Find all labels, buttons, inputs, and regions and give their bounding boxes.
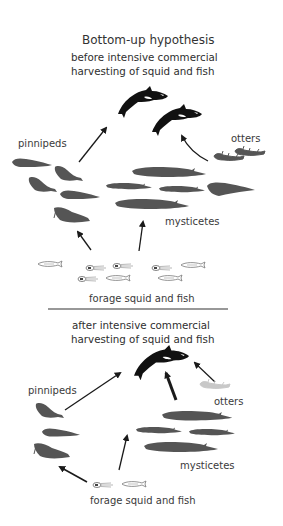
panel-heading-before-line2: harvesting of squid and fish	[71, 64, 211, 78]
forage-fish-icon	[122, 481, 146, 487]
arrow-otters-to-orca	[195, 363, 215, 382]
label-mysticetes-after: mysticetes	[180, 461, 235, 471]
whale-icon	[159, 186, 205, 192]
forage-squid-icon	[93, 483, 113, 488]
whale-icon	[189, 429, 235, 435]
forage-fish-icon	[158, 275, 182, 281]
arrow-forage-to-mysticetes	[119, 436, 127, 470]
pinniped-icon	[55, 166, 83, 181]
pinniped-icon	[12, 158, 52, 167]
forage-fish-icon	[181, 262, 205, 268]
panel-heading-after-line2: harvesting of squid and fish	[71, 332, 211, 346]
label-forage-before: forage squid and fish	[89, 294, 195, 304]
otter-icon	[200, 379, 230, 388]
arrow-otters-to-orca	[182, 136, 208, 161]
arrow-pinnipeds-to-orca	[79, 128, 106, 162]
orca-icon	[134, 345, 189, 380]
whale-icon	[144, 442, 218, 452]
forage-squid-icon	[86, 266, 106, 271]
food-web-graphics	[0, 0, 283, 526]
pinniped-icon	[34, 443, 70, 458]
label-pinnipeds-before: pinnipeds	[18, 139, 67, 149]
label-forage-after: forage squid and fish	[90, 496, 196, 506]
walrus-icon	[207, 182, 255, 196]
otter-icon	[235, 146, 265, 155]
forage-squid-icon	[78, 277, 98, 282]
orca-icon	[152, 104, 202, 136]
pinniped-icon	[42, 428, 80, 436]
arrow-mysticetes-to-orca-thick	[166, 373, 176, 400]
forage-squid-icon	[113, 264, 133, 269]
arrow-forage-to-pinnipeds	[78, 232, 91, 250]
panel-heading-before-line1: before intensive commercial	[71, 50, 211, 64]
forage-fish-icon	[106, 275, 130, 281]
pinniped-icon	[60, 190, 100, 199]
whale-icon	[132, 167, 206, 177]
pinniped-icon	[36, 403, 64, 418]
whale-icon	[136, 427, 182, 433]
label-otters-after: otters	[214, 397, 243, 407]
diagram-title: Bottom-up hypothesis	[82, 34, 215, 46]
arrow-forage-to-mysticetes	[139, 222, 143, 251]
orca-icon	[118, 86, 168, 118]
panel-heading-before: before intensive commercial harvesting o…	[71, 50, 211, 78]
pinniped-icon	[54, 207, 90, 222]
panel-heading-after-line1: after intensive commercial	[71, 318, 211, 332]
label-mysticetes-before: mysticetes	[165, 217, 220, 227]
label-pinnipeds-after: pinnipeds	[28, 386, 77, 396]
forage-fish-icon	[38, 261, 62, 267]
whale-icon	[115, 199, 189, 209]
pinniped-icon	[29, 177, 57, 192]
whale-icon	[106, 183, 152, 189]
whale-icon	[162, 411, 232, 421]
panel-heading-after: after intensive commercial harvesting of…	[71, 318, 211, 346]
arrow-forage-to-pinnipeds	[60, 467, 87, 482]
forage-squid-icon	[152, 266, 172, 271]
label-otters-before: otters	[231, 134, 260, 144]
